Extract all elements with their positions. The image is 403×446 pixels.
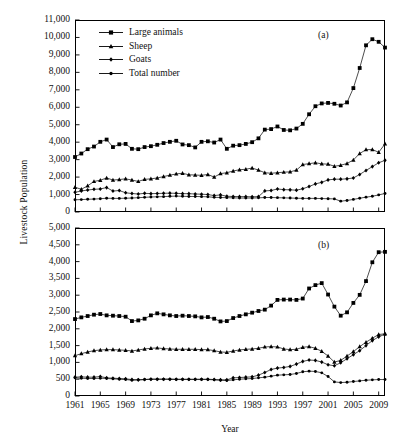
legend-item: Large animals [98,26,183,40]
series-marker [143,191,146,195]
series-marker [194,195,197,198]
series-marker [269,188,272,192]
series-marker [86,147,90,151]
series-marker [131,197,134,200]
series-marker [263,128,267,132]
series-marker [232,196,235,199]
series-marker [200,378,203,381]
y-axis-tick-label: 3,500 [49,274,70,284]
series-marker [301,197,304,200]
x-axis-tick-label: 1993 [268,401,287,411]
series-marker [187,195,190,198]
series-marker [371,378,374,381]
series-marker [358,293,362,297]
series-marker [269,304,273,308]
series-marker [320,197,323,200]
series-marker [244,377,247,380]
series-marker [130,319,134,323]
series-marker [339,314,343,318]
series-marker [238,378,241,381]
series-marker [358,172,361,176]
series-marker [244,312,248,316]
series-marker [339,177,342,181]
series-marker [314,283,318,287]
series-marker [365,196,368,199]
series-marker [383,158,386,162]
y-axis-tick-label: 1,000 [49,358,70,368]
y-axis-tick-label: 2,000 [49,324,70,334]
series-marker [307,358,310,362]
series-marker [301,122,305,126]
legend-item-label: Large animals [129,26,183,40]
series-marker [180,171,184,175]
series-marker [86,188,89,192]
y-axis-label: Livestock Population [19,132,29,272]
series-marker [118,378,121,381]
series-line [75,194,385,202]
series-marker [200,140,204,144]
y-axis-tick-label: 10,000 [44,33,70,43]
series-marker [213,196,216,199]
series-marker [365,379,368,382]
series-marker [251,377,254,380]
series-marker [193,314,197,318]
y-axis-tick-label: 6,000 [49,103,70,113]
chart-panel-a: (a) Large animalsSheepGoatsTotal number … [75,20,385,212]
series-line [75,334,385,380]
series-marker [352,380,355,383]
series-marker [358,151,362,155]
series-marker [326,293,330,297]
series-marker [105,185,108,189]
series-marker [99,197,102,200]
series-marker [168,313,172,317]
series-marker [295,362,298,366]
y-axis-tick-label: 5,000 [49,223,70,233]
series-marker [377,378,380,381]
series-marker [339,200,342,203]
x-axis-tick-label: 1985 [217,401,236,411]
series-marker [143,196,146,199]
series-marker [301,370,304,373]
x-axis-label: Year [75,424,385,434]
series-marker [155,346,159,350]
series-marker [86,314,90,318]
series-marker [131,379,134,382]
y-axis-tick-label: 2,000 [49,172,70,182]
series-marker [384,192,387,195]
series-line [75,144,385,189]
series-marker [80,377,83,380]
y-axis-tick-label: 8,000 [49,68,70,78]
series-marker [219,196,222,199]
series-marker [155,143,159,147]
series-marker [370,260,374,264]
series-marker [187,378,190,381]
series-marker [307,287,311,291]
series-marker [383,142,387,146]
series-marker [156,378,159,381]
series-marker [276,187,279,191]
series-marker [181,378,184,381]
series-marker [219,379,222,382]
legend-item-label: Total number [129,67,180,81]
y-axis-tick-label: 3,000 [49,155,70,165]
series-marker [320,371,323,374]
series-marker [124,315,128,319]
series-marker [301,359,304,363]
y-axis-tick-label: 0 [65,207,70,217]
series-marker [276,298,280,302]
series-marker [225,379,228,382]
x-axis-tick-label: 1965 [91,401,110,411]
series-marker [263,196,266,199]
series-marker [143,317,147,321]
series-marker [187,143,191,147]
x-axis-tick-label: 1973 [141,401,160,411]
x-axis-tick-label: 1997 [293,401,312,411]
legend-item: Sheep [98,40,183,54]
series-marker [143,378,146,381]
series-marker [314,104,318,108]
series-marker [162,378,165,381]
series-marker [118,197,121,200]
y-axis-tick-label: 3,000 [49,290,70,300]
series-marker [232,378,235,381]
series-marker [213,378,216,381]
